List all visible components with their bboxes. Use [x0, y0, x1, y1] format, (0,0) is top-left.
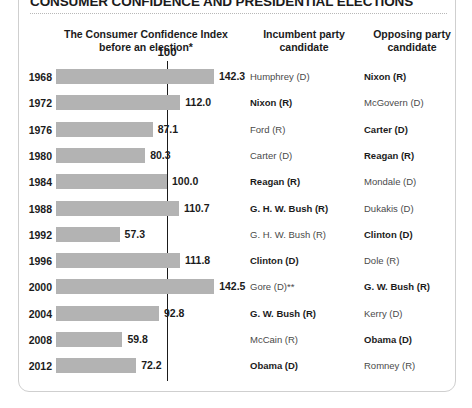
row-year-label: 2008	[14, 334, 52, 346]
opposing-candidate: McGovern (D)	[364, 97, 424, 108]
chart-row: 198080.3Carter (D)Reagan (R)	[0, 145, 472, 171]
chart-row: 1972112.0Nixon (R)McGovern (D)	[0, 92, 472, 118]
row-year-label: 1984	[14, 176, 52, 188]
row-year-label: 1988	[14, 203, 52, 215]
opposing-candidate: Dole (R)	[364, 255, 399, 266]
row-value-label: 59.8	[127, 333, 147, 345]
incumbent-candidate: McCain (R)	[250, 334, 298, 345]
incumbent-candidate: Humphrey (D)	[250, 71, 310, 82]
chart-plot-area: 100 1968142.3Humphrey (D)Nixon (R)197211…	[0, 0, 472, 408]
incumbent-candidate: Carter (D)	[250, 150, 292, 161]
chart-row: 201272.2Obama (D)Romney (R)	[0, 355, 472, 381]
chart-row: 200492.8G. W. Bush (R)Kerry (D)	[0, 303, 472, 329]
incumbent-candidate: Obama (D)	[250, 360, 298, 371]
row-bar	[56, 148, 145, 163]
chart-row: 1988110.7G. H. W. Bush (R)Dukakis (D)	[0, 198, 472, 224]
opposing-candidate: Reagan (R)	[364, 150, 414, 161]
row-value-label: 72.2	[141, 359, 161, 371]
opposing-candidate: Mondale (D)	[364, 176, 416, 187]
opposing-candidate: Carter (D)	[364, 124, 408, 135]
row-bar	[56, 201, 179, 216]
opposing-candidate: Nixon (R)	[364, 71, 406, 82]
row-year-label: 2000	[14, 281, 52, 293]
reference-line-label: 100	[147, 46, 187, 58]
row-bar	[56, 69, 214, 84]
incumbent-candidate: Clinton (D)	[250, 255, 299, 266]
incumbent-candidate: Reagan (R)	[250, 176, 300, 187]
opposing-candidate: Dukakis (D)	[364, 203, 414, 214]
row-year-label: 2012	[14, 360, 52, 372]
row-bar	[56, 122, 153, 137]
row-value-label: 100.0	[172, 175, 198, 187]
row-bar	[56, 279, 214, 294]
opposing-candidate: G. W. Bush (R)	[364, 281, 430, 292]
row-bar	[56, 332, 122, 347]
incumbent-candidate: G. H. W. Bush (R)	[250, 203, 328, 214]
row-bar	[56, 253, 180, 268]
row-bar	[56, 358, 136, 373]
chart-row: 200859.8McCain (R)Obama (D)	[0, 329, 472, 355]
row-value-label: 80.3	[150, 149, 170, 161]
row-value-label: 110.7	[184, 202, 210, 214]
opposing-candidate: Clinton (D)	[364, 229, 413, 240]
incumbent-candidate: Nixon (R)	[250, 97, 292, 108]
incumbent-candidate: Gore (D)**	[250, 281, 294, 292]
row-year-label: 1972	[14, 97, 52, 109]
chart-row: 1984100.0Reagan (R)Mondale (D)	[0, 171, 472, 197]
incumbent-candidate: G. H. W. Bush (R)	[250, 229, 326, 240]
row-value-label: 92.8	[164, 307, 184, 319]
row-year-label: 1976	[14, 124, 52, 136]
row-value-label: 87.1	[158, 123, 178, 135]
opposing-candidate: Obama (D)	[364, 334, 412, 345]
row-year-label: 1992	[14, 229, 52, 241]
row-value-label: 142.5	[219, 280, 245, 292]
row-year-label: 1968	[14, 71, 52, 83]
row-bar	[56, 227, 120, 242]
row-bar	[56, 306, 159, 321]
row-value-label: 57.3	[125, 228, 145, 240]
row-bar	[56, 174, 167, 189]
chart-row: 2000142.5Gore (D)**G. W. Bush (R)	[0, 276, 472, 302]
row-year-label: 1996	[14, 255, 52, 267]
opposing-candidate: Kerry (D)	[364, 308, 403, 319]
row-year-label: 2004	[14, 308, 52, 320]
chart-row: 1968142.3Humphrey (D)Nixon (R)	[0, 66, 472, 92]
chart-row: 1996111.8Clinton (D)Dole (R)	[0, 250, 472, 276]
opposing-candidate: Romney (R)	[364, 360, 415, 371]
row-value-label: 142.3	[219, 70, 245, 82]
row-value-label: 111.8	[185, 254, 210, 266]
chart-row: 199257.3G. H. W. Bush (R)Clinton (D)	[0, 224, 472, 250]
row-bar	[56, 95, 180, 110]
row-value-label: 112.0	[185, 96, 211, 108]
chart-row: 197687.1Ford (R)Carter (D)	[0, 119, 472, 145]
incumbent-candidate: Ford (R)	[250, 124, 285, 135]
row-year-label: 1980	[14, 150, 52, 162]
incumbent-candidate: G. W. Bush (R)	[250, 308, 316, 319]
